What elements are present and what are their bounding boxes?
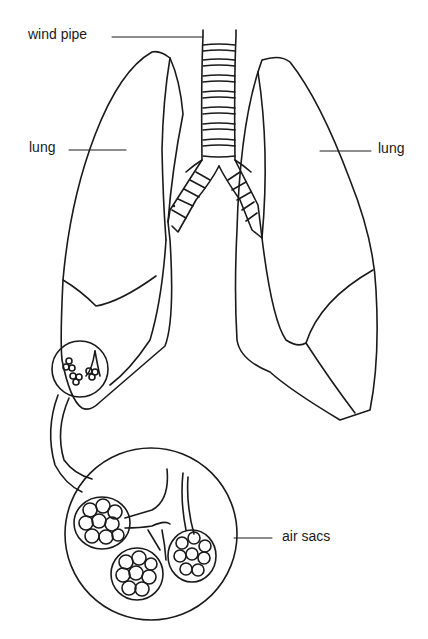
air-sac-cluster-left: [74, 497, 130, 549]
lungs-diagram: [0, 0, 428, 639]
right-lung: [236, 57, 378, 420]
trachea: [186, 30, 251, 172]
air-sac-cluster-right: [168, 530, 216, 582]
left-bronchus: [168, 160, 219, 232]
air-sacs-magnifier-circle: [65, 448, 237, 620]
right-lung-label: lung: [378, 141, 404, 155]
small-magnifier-circle: [52, 341, 108, 397]
wind-pipe-label: wind pipe: [28, 27, 87, 41]
air-sac-cluster-bottom: [111, 548, 163, 600]
air-sacs-label: air sacs: [282, 529, 330, 543]
left-lung: [61, 52, 183, 410]
left-lung-label: lung: [29, 140, 55, 154]
